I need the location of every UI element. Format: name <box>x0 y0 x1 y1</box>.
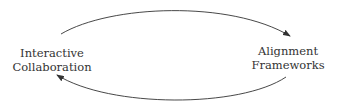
node-label-line: Alignment <box>251 44 324 58</box>
node-alignment-frameworks: Alignment Frameworks <box>251 44 324 72</box>
top-arrow <box>61 11 290 36</box>
cycle-diagram: Interactive Collaboration Alignment Fram… <box>0 0 340 109</box>
node-label-line: Frameworks <box>251 58 324 72</box>
node-interactive-collaboration: Interactive Collaboration <box>12 46 91 74</box>
node-label-line: Interactive <box>12 46 91 60</box>
bottom-arrow <box>57 75 286 100</box>
node-label-line: Collaboration <box>12 60 91 74</box>
